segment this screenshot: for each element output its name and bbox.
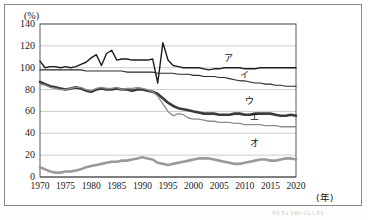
series-label-エ: エ — [250, 113, 259, 122]
caption-artifact: のうぎょうせいさんしすう — [272, 210, 338, 216]
series-line-イ — [40, 70, 296, 86]
gridlines — [40, 24, 296, 177]
y-tick-label: 60 — [1, 106, 35, 116]
y-tick-label: 20 — [1, 150, 35, 160]
y-tick-label: 120 — [1, 41, 35, 51]
y-tick-label: 80 — [1, 85, 35, 95]
plot-border — [40, 24, 296, 177]
series-line-オ — [40, 157, 296, 172]
x-tick-label: 2020 — [276, 181, 316, 191]
series-label-オ: オ — [250, 139, 259, 148]
series-label-イ: イ — [240, 71, 249, 80]
series-label-ウ: ウ — [245, 97, 254, 106]
figure-container: (%) (年) 020406080100120140 1970197519801… — [0, 0, 368, 220]
y-tick-label: 140 — [1, 19, 35, 29]
y-tick-label: 100 — [1, 63, 35, 73]
series-lines — [40, 43, 296, 173]
series-line-ア — [40, 43, 296, 83]
y-tick-label: 40 — [1, 128, 35, 138]
plot-frame — [40, 24, 296, 177]
series-label-ア: ア — [224, 54, 233, 63]
